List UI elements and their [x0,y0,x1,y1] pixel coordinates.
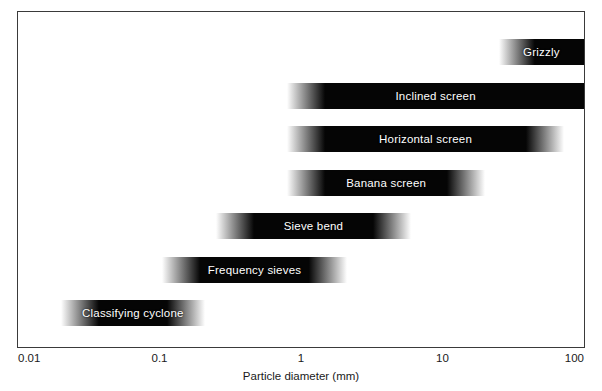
bar-label: Grizzly [523,46,560,58]
x-tick-label-0.01: 0.01 [18,352,40,364]
x-axis-title: Particle diameter (mm) [0,370,602,382]
bar-label: Horizontal screen [379,133,472,145]
bar-grizzly: Grizzly [499,39,584,65]
bar-label: Banana screen [346,177,426,189]
x-tick-label-100: 100 [565,352,584,364]
x-tick-label-10: 10 [436,352,449,364]
chart-root: GrizzlyInclined screenHorizontal screenB… [0,0,602,391]
bar-classifying-cyclone: Classifying cyclone [61,300,205,326]
bar-inclined-screen: Inclined screen [287,83,584,109]
bar-label: Sieve bend [284,220,344,232]
bar-frequency-sieves: Frequency sieves [162,257,346,283]
bar-label: Inclined screen [395,90,475,102]
plot-area: GrizzlyInclined screenHorizontal screenB… [18,12,584,347]
bar-horizontal-screen: Horizontal screen [287,126,564,152]
bar-banana-screen: Banana screen [287,170,485,196]
bar-sieve-bend: Sieve bend [216,213,411,239]
x-tick-label-1: 1 [298,352,304,364]
bar-label: Classifying cyclone [82,307,184,319]
bar-label: Frequency sieves [208,264,301,276]
x-tick-label-0.1: 0.1 [152,352,168,364]
